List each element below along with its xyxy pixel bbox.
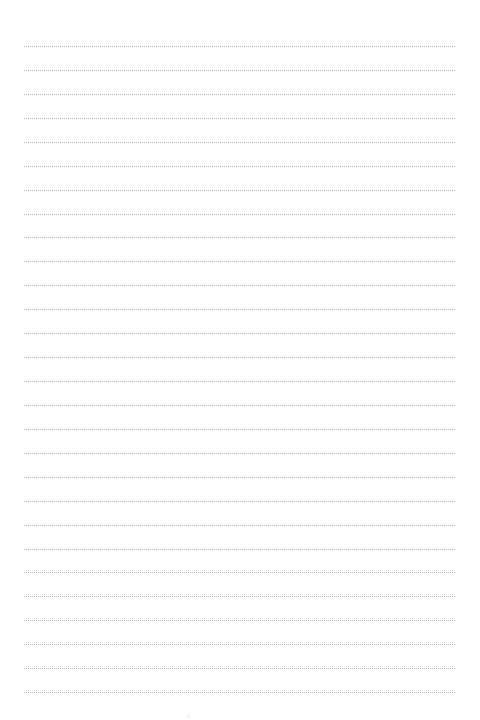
ruled-line (24, 333, 455, 334)
ruled-line (24, 285, 455, 286)
ruled-line (24, 405, 455, 406)
ruled-line (24, 309, 455, 310)
ruled-line (24, 668, 455, 669)
ruled-line (24, 46, 455, 47)
ruled-line (24, 692, 455, 693)
ruled-line (24, 142, 455, 143)
ruled-page (0, 0, 480, 720)
ruled-line (24, 214, 455, 215)
ruled-line (24, 549, 455, 550)
ruled-line (24, 118, 455, 119)
ruled-line (24, 94, 455, 95)
ruled-line (24, 237, 455, 238)
ruled-line (24, 525, 455, 526)
ruled-line (24, 357, 455, 358)
ruled-line (24, 501, 455, 502)
ruled-line (24, 572, 455, 573)
ruled-line (24, 429, 455, 430)
ruled-line (24, 644, 455, 645)
ruled-line (24, 261, 455, 262)
ruled-line (24, 453, 455, 454)
ruled-line (24, 70, 455, 71)
ruled-line (24, 477, 455, 478)
paper-smudge (187, 715, 190, 718)
ruled-line (24, 166, 455, 167)
ruled-line (24, 596, 455, 597)
ruled-line (24, 620, 455, 621)
ruled-line (24, 190, 455, 191)
ruled-line (24, 381, 455, 382)
